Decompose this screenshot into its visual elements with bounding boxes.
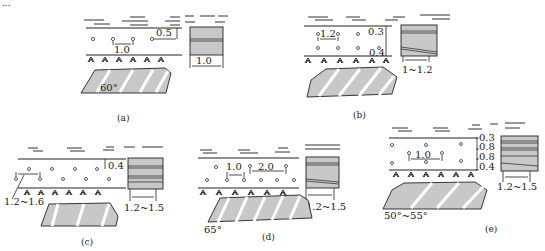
water-surface-lines xyxy=(200,145,340,153)
panel-e: 1.0 0.3 0.8 0.8 0.4 1.2~1.5 50°~55° (e) xyxy=(383,123,538,234)
hole-spacing-label: 1.0 xyxy=(114,44,130,55)
block-width-label: 1~1.2 xyxy=(402,64,433,75)
block-width-label: 1.2~1.5 xyxy=(124,202,164,213)
section-block xyxy=(401,25,437,62)
caption-d: (d) xyxy=(262,232,275,242)
hole-spacing-label: 1.2 xyxy=(320,28,336,39)
ground-hatching xyxy=(24,190,101,195)
rock-section xyxy=(41,203,118,226)
top-offset-label: 0.5 xyxy=(156,27,172,38)
rock-section xyxy=(81,68,171,93)
ground-hatching xyxy=(88,57,164,62)
block-width-label: 1.2~1.5 xyxy=(497,181,537,192)
section-block xyxy=(128,158,163,201)
water-surface-lines xyxy=(28,147,163,151)
angle-label: 65° xyxy=(204,224,222,235)
water-surface-lines xyxy=(392,123,525,131)
offset-label-4: 0.4 xyxy=(479,161,495,172)
rock-section xyxy=(208,195,312,222)
blasting-pattern-diagram: ... 1.0 0.5 1.0 xyxy=(0,0,545,251)
panel-c: 1.2~1.6 0.4 1.2~1.5 (c) xyxy=(4,147,164,247)
angle-label: 50°~55° xyxy=(384,210,428,221)
caption-c: (c) xyxy=(81,237,93,247)
caption-e: (e) xyxy=(485,224,497,234)
ground-hatching xyxy=(200,190,286,195)
angle-label: 60° xyxy=(100,82,118,93)
hole-spacing-label: 1.0 xyxy=(415,149,431,160)
top-offset-label: 0.4 xyxy=(108,160,124,171)
hole-spacing-1-label: 1.0 xyxy=(226,161,242,172)
block-width-label: 1.2~1.5 xyxy=(306,201,346,212)
top-offset-label: 0.3 xyxy=(368,26,384,37)
rock-section xyxy=(307,67,397,97)
rock-section xyxy=(383,182,487,209)
ground-hatching xyxy=(305,58,389,63)
ground-hatching xyxy=(393,172,474,177)
header-fragment: ... xyxy=(2,0,11,8)
water-surface-lines xyxy=(84,16,228,25)
panel-b: 1.2 0.3 0.4 1~1.2 (b) xyxy=(304,15,450,120)
block-width-label: 1.0 xyxy=(196,55,212,66)
drill-holes xyxy=(91,37,153,40)
drill-holes xyxy=(206,165,296,182)
caption-b: (b) xyxy=(353,110,366,120)
caption-a: (a) xyxy=(117,113,129,123)
panel-d: 1.0 2.0 1.2~1.5 65° (d) xyxy=(198,145,346,242)
bottom-offset-label: 0.4 xyxy=(369,47,385,58)
hole-spacing-label: 1.2~1.6 xyxy=(4,196,44,207)
section-block xyxy=(501,136,538,182)
water-surface-lines xyxy=(308,15,450,20)
panel-a: 1.0 0.5 1.0 60° (a) xyxy=(81,16,228,123)
section-block xyxy=(306,157,339,200)
hole-spacing-2-label: 2.0 xyxy=(258,161,274,172)
